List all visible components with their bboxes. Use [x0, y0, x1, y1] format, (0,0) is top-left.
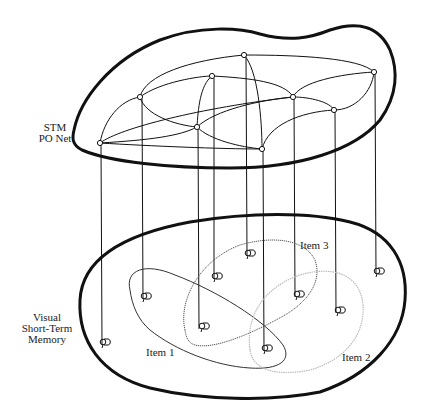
vstm-label: Visual Short-Term Memory: [18, 312, 76, 345]
feature-glyph-icon: [294, 291, 304, 300]
diagram-canvas: STM PO Net Visual Short-Term Memory Item…: [0, 0, 425, 418]
vstm-label-line3: Memory: [18, 334, 76, 345]
po-node: [97, 140, 102, 145]
item3-label: Item 3: [300, 240, 328, 251]
stm-po-net-label: STM PO Net: [38, 122, 72, 144]
item2-label: Item 2: [342, 352, 370, 363]
po-net-boundary: [73, 26, 395, 168]
po-node: [194, 124, 199, 129]
po-node: [209, 73, 214, 78]
po-node: [331, 107, 336, 112]
po-node: [290, 94, 295, 99]
po-node: [259, 146, 264, 151]
vstm-boundary: [80, 215, 405, 399]
po-node: [241, 52, 246, 57]
feature-glyph-icon: [335, 307, 345, 316]
feature-glyph-icon: [199, 323, 209, 332]
po-net-edges: [100, 55, 374, 149]
po-node: [137, 94, 142, 99]
item1-label: Item 1: [146, 347, 174, 358]
po-node: [371, 69, 376, 74]
stm-po-net-label-line2: PO Net: [38, 133, 72, 144]
